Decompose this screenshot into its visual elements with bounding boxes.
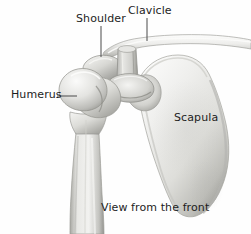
label-shoulder: Shoulder xyxy=(76,13,126,25)
label-scapula: Scapula xyxy=(174,112,218,124)
label-humerus: Humerus xyxy=(11,89,62,101)
figure-caption: View from the front xyxy=(101,202,209,214)
anatomy-figure: Shoulder Clavicle Humerus Scapula View f… xyxy=(0,0,251,234)
label-clavicle: Clavicle xyxy=(128,5,172,17)
